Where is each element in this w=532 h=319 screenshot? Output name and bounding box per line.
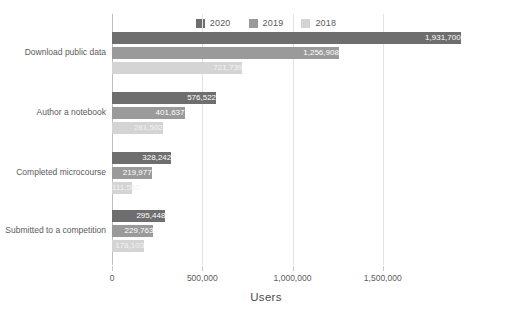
category-label: Download public data xyxy=(0,47,106,57)
bar-group: 1,931,7001,256,908721,739 xyxy=(112,32,464,74)
bar-row[interactable]: 229,763 xyxy=(112,225,464,237)
bar-value-label: 1,931,700 xyxy=(112,32,465,44)
x-tick-label: 1,500,000 xyxy=(364,273,402,283)
bar-value-label: 229,763 xyxy=(112,225,157,237)
bar-row[interactable]: 721,739 xyxy=(112,62,464,74)
bar-value-label: 721,739 xyxy=(112,62,246,74)
bar-group: 576,522401,637281,502 xyxy=(112,92,464,134)
x-tick xyxy=(112,266,113,271)
x-tick-label: 500,000 xyxy=(187,273,218,283)
bar-value-label: 328,242 xyxy=(112,152,175,164)
category-label: Completed microcourse xyxy=(0,167,106,177)
category-label: Submitted to a competition xyxy=(0,225,106,235)
bar-row[interactable]: 1,256,908 xyxy=(112,47,464,59)
bar-row[interactable]: 111,552 xyxy=(112,182,464,194)
bar-value-label: 401,637 xyxy=(112,107,189,119)
bar-value-label: 1,256,908 xyxy=(112,47,343,59)
x-tick-label: 0 xyxy=(110,273,115,283)
bar-row[interactable]: 328,242 xyxy=(112,152,464,164)
bar-row[interactable]: 178,103 xyxy=(112,240,464,252)
plot-area: 1,931,7001,256,908721,739576,522401,6372… xyxy=(112,14,464,265)
bar-row[interactable]: 219,977 xyxy=(112,167,464,179)
bar-row[interactable]: 1,931,700 xyxy=(112,32,464,44)
bar-row[interactable]: 401,637 xyxy=(112,107,464,119)
x-tick xyxy=(293,266,294,271)
x-axis-title: Users xyxy=(0,291,532,303)
bar-value-label: 111,552 xyxy=(112,182,136,194)
bar-row[interactable]: 281,502 xyxy=(112,122,464,134)
bar-value-label: 281,502 xyxy=(112,122,167,134)
bar-group: 328,242219,977111,552 xyxy=(112,152,464,194)
bar-value-label: 178,103 xyxy=(112,240,148,252)
x-tick xyxy=(202,266,203,271)
x-tick xyxy=(383,266,384,271)
x-tick-label: 1,000,000 xyxy=(274,273,312,283)
category-label: Author a notebook xyxy=(0,107,106,117)
bar-value-label: 295,448 xyxy=(112,210,169,222)
bar-value-label: 219,977 xyxy=(112,167,156,179)
bar-row[interactable]: 295,448 xyxy=(112,210,464,222)
bar-chart: 202020192018 1,931,7001,256,908721,73957… xyxy=(0,0,532,319)
bar-group: 295,448229,763178,103 xyxy=(112,210,464,252)
bar-value-label: 576,522 xyxy=(112,92,220,104)
bar-row[interactable]: 576,522 xyxy=(112,92,464,104)
